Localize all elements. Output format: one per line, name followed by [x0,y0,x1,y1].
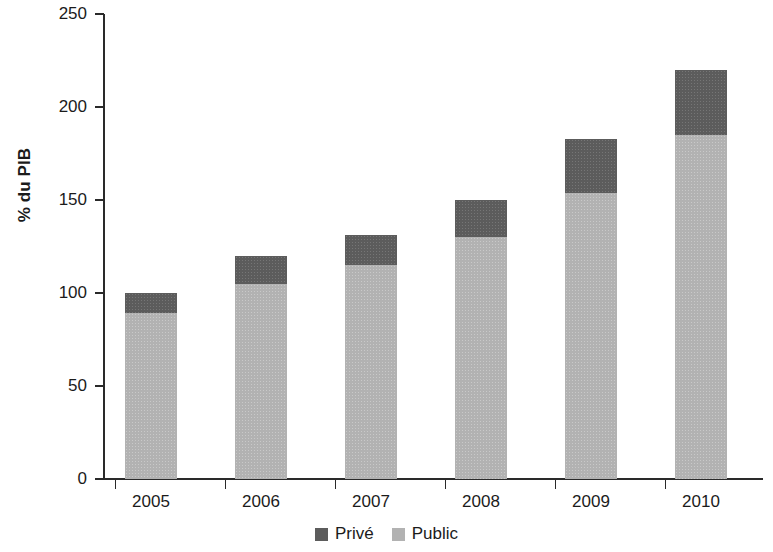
x-axis-tick [335,479,337,489]
x-axis-tick [445,479,447,489]
bar-segment-prive [345,235,397,265]
bar-stack [345,235,397,479]
bar-segment-public [235,284,287,479]
bar-segment-public [125,313,177,479]
stacked-bar-chart: % du PIB 050100150200250 200520062007200… [0,0,773,552]
bar-segment-prive [675,70,727,135]
bar-stack [235,256,287,479]
x-axis-tick-label: 2008 [462,492,500,512]
legend-label: Privé [335,524,374,544]
x-axis-tick [555,479,557,489]
legend-item: Public [392,524,458,544]
legend-swatch-icon [392,528,405,541]
y-axis-tick-label: 50 [25,376,87,396]
legend-swatch-icon [315,528,328,541]
bar-stack [675,70,727,479]
bar-segment-prive [235,256,287,284]
x-axis-tick-label: 2007 [352,492,390,512]
bar-segment-public [455,237,507,479]
chart-legend: PrivéPublic [0,524,773,544]
x-axis-tick-label: 2005 [132,492,170,512]
bar-stack [455,200,507,479]
x-axis-tick-label: 2010 [682,492,720,512]
y-axis-title: % du PIB [15,105,35,265]
legend-label: Public [412,524,458,544]
x-axis-tick [225,479,227,489]
y-axis-tick-label: 250 [25,4,87,24]
x-axis-tick-label: 2006 [242,492,280,512]
y-axis-tick-label: 0 [25,469,87,489]
bar-segment-public [565,193,617,479]
bar-segment-prive [125,293,177,313]
y-axis-tick-label: 100 [25,283,87,303]
y-axis-tick-label: 150 [25,190,87,210]
bar-stack [565,139,617,479]
y-axis-tick-label: 200 [25,97,87,117]
bar-stack [125,293,177,479]
legend-item: Privé [315,524,374,544]
bar-segment-public [345,265,397,479]
bar-segment-prive [455,200,507,237]
x-axis-tick [665,479,667,489]
plot-area [103,14,763,479]
x-axis-tick [115,479,117,489]
x-axis-tick-label: 2009 [572,492,610,512]
bar-segment-public [675,135,727,479]
bar-segment-prive [565,139,617,193]
